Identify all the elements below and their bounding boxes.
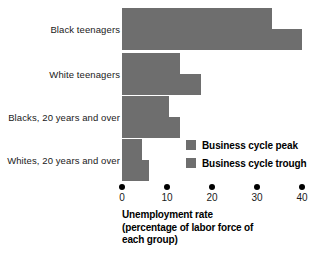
legend-label-business-cycle-trough: Business cycle trough (202, 158, 307, 169)
category-label-whites-20-and-over: Whites, 20 years and over (7, 155, 120, 166)
category-label-blacks-20-and-over: Blacks, 20 years and over (8, 112, 120, 123)
x-axis-title-line-2: (percentage of labor force of (122, 222, 312, 235)
bar-peak-blacks-20-and-over (122, 96, 169, 117)
bar-group-white-teenagers: White teenagers (0, 53, 316, 95)
bar-peak-black-teenagers (122, 8, 272, 29)
x-tick-label-40: 40 (288, 192, 316, 203)
bar-group-blacks-20-and-over: Blacks, 20 years and over (0, 96, 316, 138)
tick-dot-icon (299, 184, 305, 190)
x-axis-title: Unemployment rate (percentage of labor f… (122, 209, 312, 247)
x-axis: 0 10 20 30 40 (0, 184, 316, 208)
bar-trough-white-teenagers (122, 74, 201, 95)
tick-dot-icon (254, 184, 260, 190)
category-label-white-teenagers: White teenagers (49, 69, 120, 80)
bar-trough-whites-20-and-over (122, 160, 149, 181)
bar-trough-blacks-20-and-over (122, 117, 180, 138)
bar-peak-white-teenagers (122, 53, 180, 74)
legend-item-business-cycle-peak: Business cycle peak (186, 137, 316, 153)
tick-dot-icon (209, 184, 215, 190)
bar-trough-black-teenagers (122, 29, 302, 50)
plot-area: Black teenagers White teenagers Blacks, … (0, 0, 316, 182)
x-tick-label-10: 10 (153, 192, 181, 203)
bar-peak-whites-20-and-over (122, 139, 142, 160)
legend-item-business-cycle-trough: Business cycle trough (186, 155, 316, 171)
legend-label-business-cycle-peak: Business cycle peak (202, 140, 298, 151)
x-tick-label-0: 0 (108, 192, 136, 203)
bar-group-black-teenagers: Black teenagers (0, 8, 316, 50)
legend-swatch-trough-icon (186, 158, 196, 168)
tick-dot-icon (164, 184, 170, 190)
unemployment-rate-bar-chart: Black teenagers White teenagers Blacks, … (0, 0, 316, 256)
x-tick-label-30: 30 (243, 192, 271, 203)
tick-dot-icon (119, 184, 125, 190)
legend-swatch-peak-icon (186, 140, 196, 150)
x-axis-title-line-1: Unemployment rate (122, 209, 312, 222)
x-axis-title-line-3: each group) (122, 234, 312, 247)
x-tick-label-20: 20 (198, 192, 226, 203)
legend: Business cycle peak Business cycle troug… (186, 137, 316, 173)
category-label-black-teenagers: Black teenagers (50, 24, 120, 35)
